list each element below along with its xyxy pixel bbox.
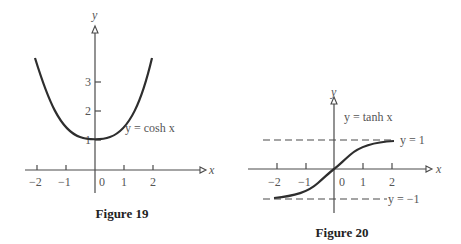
x-tick-label: 0: [339, 175, 345, 189]
x-tick-label: −1: [298, 175, 311, 189]
x-tick-label: 1: [121, 175, 127, 189]
x-axis-arrow-icon: [426, 166, 432, 172]
x-axis-label: x: [435, 162, 442, 176]
x-tick-label: −1: [58, 175, 71, 189]
figure-20: y = 1 y = −1 x y −2 −1 0 1 2 y = tanh x …: [248, 85, 442, 240]
y-tick-label: 2: [85, 104, 91, 118]
x-tick-label: −2: [268, 175, 281, 189]
curve-label: y = tanh x: [344, 110, 392, 124]
x-tick-label: 0: [99, 175, 105, 189]
x-axis-label: x: [208, 163, 215, 177]
y-axis-label: y: [91, 8, 98, 22]
x-axis-arrow-icon: [200, 167, 206, 173]
curve-label: y = cosh x: [125, 121, 175, 135]
x-tick-label: 2: [150, 175, 156, 189]
figure-caption: Figure 19: [96, 206, 149, 221]
figures-canvas: x y −2 −1 0 1 2 1 2 3 y = cosh x Figure …: [0, 0, 461, 244]
x-tick-label: 2: [389, 175, 395, 189]
x-tick-label: −2: [29, 175, 42, 189]
figure-caption: Figure 20: [316, 225, 369, 240]
y-tick-label: 3: [85, 75, 91, 89]
y-axis-arrow-icon: [92, 26, 98, 33]
asymptote-upper-label: y = 1: [400, 133, 425, 147]
y-axis-label: y: [330, 85, 337, 99]
figure-19: x y −2 −1 0 1 2 1 2 3 y = cosh x Figure …: [25, 8, 215, 221]
asymptote-lower-label: y = −1: [388, 192, 420, 206]
x-tick-label: 1: [360, 175, 366, 189]
